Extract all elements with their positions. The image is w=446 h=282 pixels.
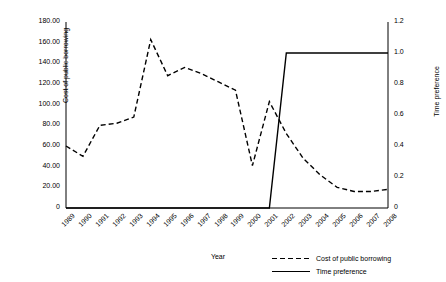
legend-item[interactable]: Time preference	[272, 265, 442, 278]
plot-area	[0, 0, 446, 282]
legend-item[interactable]: Cost of public borrowing	[272, 252, 442, 265]
series-line	[66, 40, 388, 192]
chart-container: Cost of public borrowing Time preference…	[0, 0, 446, 282]
legend-swatch-icon	[272, 258, 310, 259]
data-series-group	[66, 40, 388, 208]
series-line	[66, 53, 388, 208]
chart-legend: Cost of public borrowingTime preference	[272, 252, 442, 278]
legend-label: Cost of public borrowing	[316, 255, 391, 262]
legend-swatch-icon	[272, 271, 310, 272]
legend-label: Time preference	[316, 268, 367, 275]
axes-lines	[66, 22, 388, 208]
